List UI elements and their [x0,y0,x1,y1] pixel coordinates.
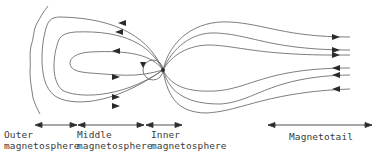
arrow-right-icon [332,34,340,40]
arrow-right-icon [332,52,340,58]
magnetopause-boundary [30,6,48,114]
arrow-left-icon [332,65,340,71]
label-magnetotail: Magnetotail [289,132,353,142]
arrow-left-icon [332,72,340,78]
field-line-day-3 [70,52,163,76]
label-middle-line2: magnetosphere [77,141,153,151]
arrow-left-icon [118,20,126,26]
arrow-right-icon [332,47,340,53]
arrow-left-icon [112,48,120,54]
field-line-tail-3 [163,45,350,70]
earth-dipole [161,68,165,72]
arrow-down-icon [140,62,146,68]
label-inner-line1: Inner [151,130,180,140]
arrow-left-icon [332,86,340,92]
field-line-tail-2 [163,33,350,70]
label-outer-line2: magnetosphere [4,141,80,151]
label-inner-line2: magnetosphere [151,141,227,151]
label-outer-line1: Outer [4,130,33,140]
field-line-tail-5 [163,70,350,104]
field-line-tail-1 [163,22,350,70]
arrow-left-icon [115,29,123,35]
field-line-tail-4 [163,68,350,91]
field-line-day-1 [42,17,163,102]
arrow-right-icon [112,103,120,109]
label-middle-line1: Middle [77,130,112,140]
